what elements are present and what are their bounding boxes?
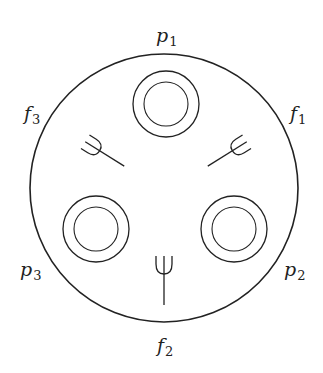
label-p2: p2: [284, 258, 305, 283]
label-f1: f1: [288, 102, 306, 127]
label-f2: f2: [155, 334, 173, 359]
svg-text:p3: p3: [20, 258, 41, 283]
fork-f3-icon: [81, 135, 128, 173]
plate-p2: [201, 196, 267, 262]
round-table-diagram: p1 f1 p2 f2 p3 f3: [0, 0, 323, 373]
label-p1: p1: [156, 24, 177, 49]
svg-text:p1: p1: [156, 24, 177, 49]
svg-text:f1: f1: [288, 102, 306, 127]
plate-p3: [63, 196, 129, 262]
fork-f1-icon: [204, 135, 251, 173]
label-p3: p3: [20, 258, 41, 283]
svg-text:p2: p2: [284, 258, 305, 283]
svg-text:f3: f3: [22, 102, 40, 127]
fork-f2-icon: [156, 256, 172, 305]
svg-text:f2: f2: [155, 334, 173, 359]
label-f3: f3: [22, 102, 40, 127]
plate-p1: [133, 71, 199, 137]
